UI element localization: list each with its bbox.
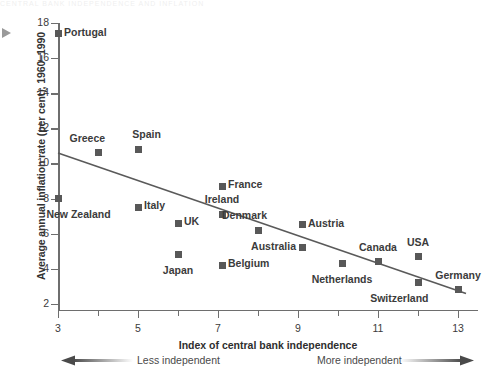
data-point-marker[interactable]	[135, 146, 142, 153]
data-point-label: Belgium	[228, 257, 269, 269]
x-axis-tick	[138, 311, 139, 318]
data-point-label: Australia	[296, 240, 341, 252]
data-point-label: Ireland	[205, 193, 239, 205]
data-point-marker[interactable]	[375, 258, 382, 265]
data-point-label: Netherlands	[312, 273, 373, 285]
x-axis-label: Index of central bank independence	[58, 339, 478, 351]
data-point-marker[interactable]	[135, 204, 142, 211]
x-axis-minor-tick	[418, 311, 419, 316]
x-axis-tick	[378, 311, 379, 318]
data-point-marker[interactable]	[255, 227, 262, 234]
y-axis-tick	[51, 58, 58, 59]
data-point-marker[interactable]	[55, 30, 62, 37]
x-axis-tick-label: 3	[45, 322, 71, 334]
y-axis-tick-label: 2	[25, 297, 49, 309]
y-axis-tick	[51, 93, 58, 94]
data-point-marker[interactable]	[299, 221, 306, 228]
x-axis-minor-tick	[258, 311, 259, 316]
x-axis-tick-label: 5	[125, 322, 151, 334]
y-axis-tick	[51, 304, 58, 305]
data-point-label: Italy	[144, 199, 165, 211]
data-point-marker[interactable]	[55, 195, 62, 202]
data-point-label: France	[228, 178, 262, 190]
data-point-label: New Zealand	[46, 208, 110, 220]
data-point-marker[interactable]	[455, 286, 462, 293]
data-point-label: Switzerland	[370, 292, 428, 304]
data-point-marker[interactable]	[175, 251, 182, 258]
independence-direction-bar: Less independent More independent	[55, 352, 480, 370]
y-axis-tick-label: 14	[25, 86, 49, 98]
x-axis-minor-tick	[98, 311, 99, 316]
data-point-marker[interactable]	[339, 260, 346, 267]
data-point-label: Denmark	[222, 209, 267, 221]
x-axis-tick	[218, 311, 219, 318]
y-axis-tick-label: 18	[25, 16, 49, 28]
x-axis-tick-label: 13	[445, 322, 471, 334]
y-axis-tick-label: 12	[25, 121, 49, 133]
y-axis-tick-label: 6	[25, 227, 49, 239]
data-point-label: Spain	[132, 128, 161, 140]
more-independent-label: More independent	[317, 354, 402, 366]
x-axis-minor-tick	[338, 311, 339, 316]
data-point-marker[interactable]	[219, 262, 226, 269]
data-point-marker[interactable]	[219, 183, 226, 190]
y-axis-tick-label: 4	[25, 262, 49, 274]
chart-figure: CENTRAL BANK INDEPENDENCE AND INFLATION …	[0, 0, 502, 376]
data-point-label: Austria	[308, 217, 344, 229]
data-point-marker[interactable]	[415, 279, 422, 286]
data-point-marker[interactable]	[95, 149, 102, 156]
x-axis-tick	[58, 311, 59, 318]
y-axis-tick-label: 8	[25, 192, 49, 204]
x-axis-tick-label: 11	[365, 322, 391, 334]
x-axis-tick	[458, 311, 459, 318]
x-axis-tick-label: 7	[205, 322, 231, 334]
pointer-triangle-icon	[2, 28, 11, 38]
data-point-label: Germany	[435, 269, 481, 281]
data-point-label: Portugal	[64, 26, 107, 38]
data-point-label: Japan	[163, 264, 193, 276]
y-axis-tick	[51, 128, 58, 129]
y-axis-tick	[51, 234, 58, 235]
data-point-label: Canada	[359, 241, 397, 253]
plot-area: 2468101214161835791113PortugalGreeceSpai…	[58, 23, 478, 311]
data-point-label: Greece	[70, 132, 106, 144]
x-axis-tick	[298, 311, 299, 318]
x-axis-tick-label: 9	[285, 322, 311, 334]
data-point-marker[interactable]	[175, 220, 182, 227]
y-axis-tick-label: 10	[25, 156, 49, 168]
direction-arrows-icon	[55, 352, 480, 370]
data-point-label: USA	[407, 236, 429, 248]
y-axis-tick	[51, 23, 58, 24]
data-point-label: UK	[184, 215, 199, 227]
y-axis-tick-label: 16	[25, 51, 49, 63]
y-axis-tick	[51, 163, 58, 164]
x-axis-line	[58, 310, 478, 312]
page-header-strip: CENTRAL BANK INDEPENDENCE AND INFLATION	[0, 0, 502, 7]
x-axis-minor-tick	[178, 311, 179, 316]
less-independent-label: Less independent	[137, 354, 220, 366]
data-point-marker[interactable]	[415, 253, 422, 260]
y-axis-tick	[51, 269, 58, 270]
y-axis-line	[58, 23, 60, 311]
